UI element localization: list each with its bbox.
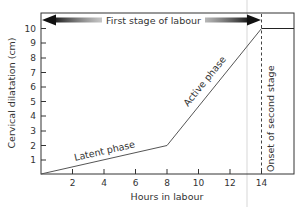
onset-second-stage-label: Onset of second stage (265, 65, 276, 172)
first-stage-label: First stage of labour (106, 15, 201, 26)
y-tick: 1 (30, 155, 36, 165)
x-tick: 4 (101, 178, 107, 188)
labour-chart: 1 2 3 4 5 6 7 8 9 10 2 4 6 8 10 12 14 Ho… (0, 0, 304, 207)
x-tick: 8 (164, 178, 170, 188)
x-tick: 14 (256, 178, 268, 188)
plot-frame (41, 13, 294, 174)
x-tick: 10 (193, 178, 205, 188)
y-axis-title: Cervical dilatation (cm) (6, 37, 17, 148)
y-tick: 6 (30, 82, 36, 92)
y-tick-labels: 1 2 3 4 5 6 7 8 9 10 (25, 24, 37, 166)
active-phase-label: Active phase (181, 54, 228, 109)
y-tick: 3 (30, 126, 36, 136)
x-tick: 12 (224, 178, 235, 188)
y-tick: 10 (25, 24, 37, 34)
y-tick: 4 (30, 111, 36, 121)
y-tick: 5 (30, 97, 36, 107)
y-tick: 7 (30, 68, 36, 78)
y-axis (41, 29, 46, 161)
x-axis (73, 169, 262, 174)
first-stage-arrow: First stage of labour (42, 14, 261, 26)
x-tick: 2 (70, 178, 76, 188)
y-tick: 9 (30, 38, 36, 48)
y-tick: 2 (30, 141, 36, 151)
x-tick: 6 (133, 178, 139, 188)
y-tick: 8 (30, 53, 36, 63)
x-axis-title: Hours in labour (131, 191, 204, 202)
x-tick-labels: 2 4 6 8 10 12 14 (70, 178, 268, 188)
